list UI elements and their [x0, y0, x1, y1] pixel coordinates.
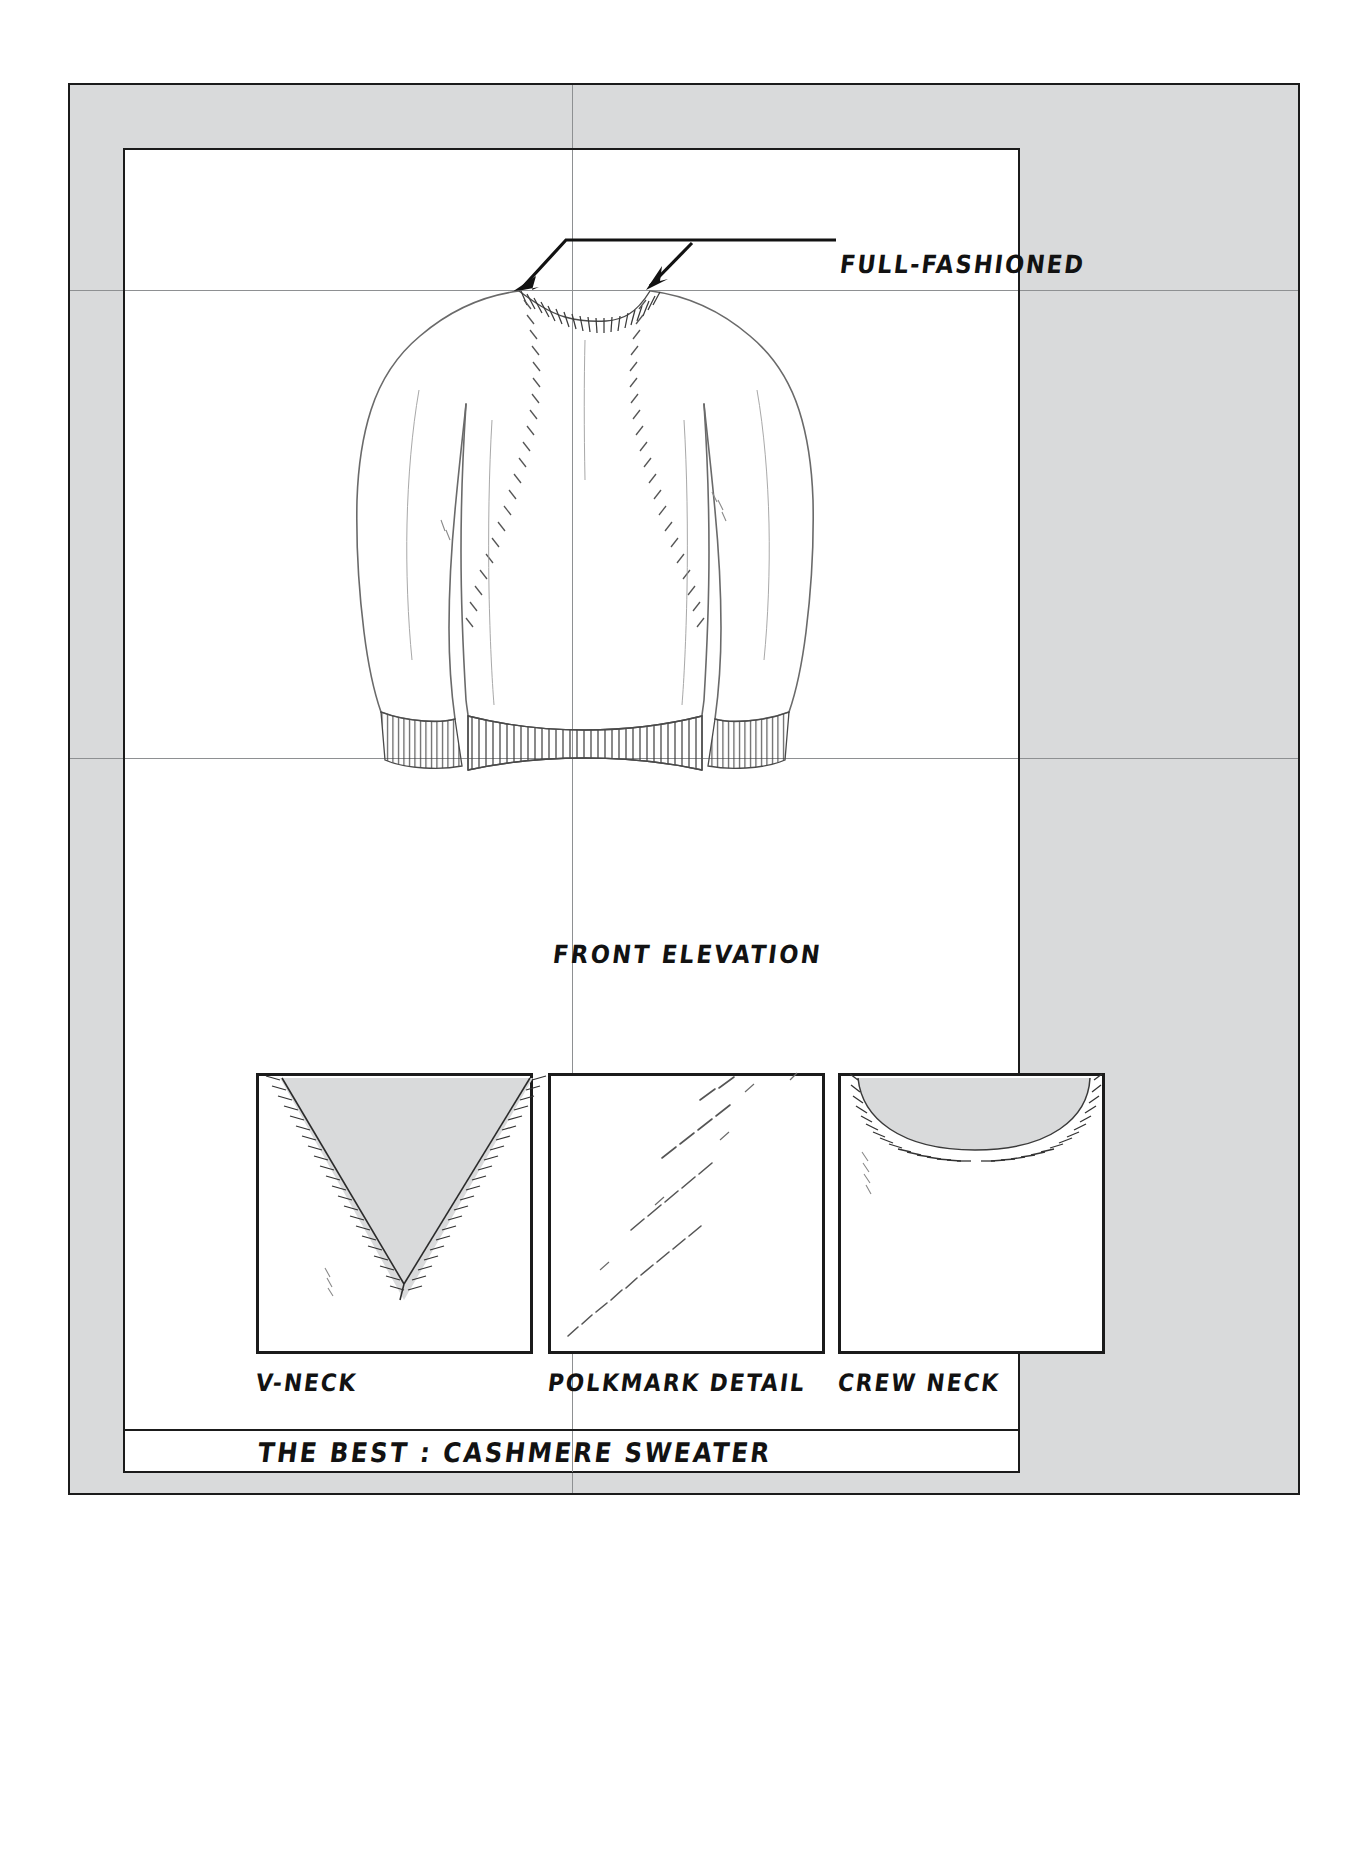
detail-box-polkmark	[548, 1073, 825, 1354]
annotation-full-fashioned: FULL-FASHIONED	[838, 250, 1086, 279]
caption-crew-neck: CREW NECK	[836, 1369, 1001, 1397]
title-plate-text: THE BEST : CASHMERE SWEATER	[256, 1437, 774, 1468]
drawing-sheet: FULL-FASHIONED FRONT ELEVATION	[0, 0, 1368, 1874]
caption-v-neck: V-NECK	[254, 1369, 359, 1397]
caption-polkmark-detail: POLKMARK DETAIL	[546, 1369, 807, 1397]
guide-line-horizontal-lower-panel	[125, 758, 1018, 759]
detail-box-v-neck	[256, 1073, 533, 1354]
detail-box-crew-neck	[838, 1073, 1105, 1354]
title-plate-rule	[125, 1429, 1018, 1431]
caption-front-elevation: FRONT ELEVATION	[551, 940, 824, 969]
guide-line-horizontal-upper-panel	[125, 290, 1018, 291]
